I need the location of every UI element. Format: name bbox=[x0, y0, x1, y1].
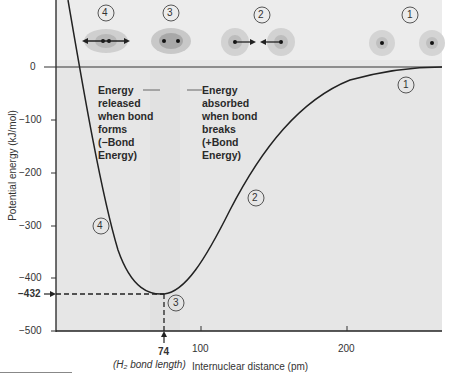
x-tick-100: 100 bbox=[192, 343, 209, 354]
top-marker-3: 3 bbox=[167, 7, 173, 18]
curve-marker-2: 2 bbox=[252, 192, 258, 203]
y-axis-label: Potential energy (kJ/mol) bbox=[7, 106, 18, 226]
y-tick-minus200: −200 bbox=[19, 167, 42, 178]
curve-marker-3: 3 bbox=[173, 297, 179, 308]
y-tick-minus500: −500 bbox=[19, 325, 42, 336]
top-marker-1: 1 bbox=[407, 9, 413, 20]
bond-length-note: (H₂ bond length) bbox=[113, 359, 186, 370]
bond-length-label: 74 bbox=[158, 346, 169, 357]
divider bbox=[0, 372, 72, 373]
top-marker-4: 4 bbox=[102, 7, 108, 18]
y-tick-minus400: −400 bbox=[19, 272, 42, 283]
potential-energy-chart bbox=[0, 0, 451, 377]
x-axis-label: Internuclear distance (pm) bbox=[192, 361, 308, 372]
top-marker-2: 2 bbox=[258, 9, 264, 20]
y-tick-minus100: −100 bbox=[19, 114, 42, 125]
y-tick-0: 0 bbox=[30, 61, 36, 72]
energy-released-note: Energy released when bond forms (−Bond E… bbox=[98, 84, 153, 162]
min-energy-label: −432 bbox=[18, 288, 41, 299]
x-tick-200: 200 bbox=[338, 343, 355, 354]
energy-absorbed-note: Energy absorbed when bond breaks (+Bond … bbox=[202, 84, 257, 162]
y-tick-minus300: −300 bbox=[19, 220, 42, 231]
curve-marker-1: 1 bbox=[403, 79, 409, 90]
curve-marker-4: 4 bbox=[97, 220, 103, 231]
